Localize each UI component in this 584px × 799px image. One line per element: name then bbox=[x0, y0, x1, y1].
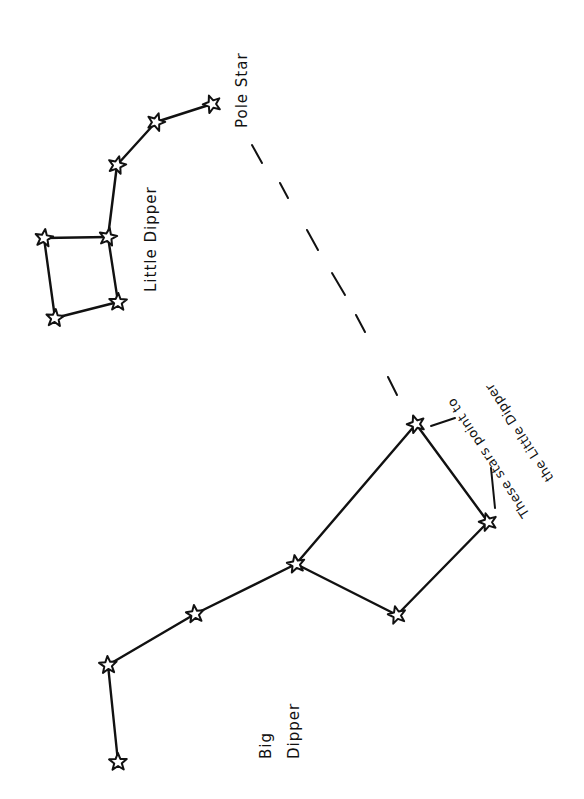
big-dipper-star-icon bbox=[185, 604, 204, 623]
little-dipper-line bbox=[156, 104, 212, 122]
big-dipper-line bbox=[108, 614, 195, 665]
big-dipper-star-icon bbox=[405, 413, 427, 434]
big-dipper-line bbox=[397, 522, 488, 615]
pointer-dash bbox=[388, 377, 397, 395]
pole-star-icon bbox=[201, 93, 223, 115]
little-dipper-line bbox=[44, 238, 55, 318]
pointer-dash bbox=[307, 230, 318, 250]
little-dipper-line bbox=[108, 237, 118, 302]
big-dipper-label-line1: Big bbox=[257, 732, 275, 759]
big-dipper-label-line2: Dipper bbox=[285, 703, 303, 759]
big-dipper-line bbox=[195, 564, 296, 614]
pointer-dash bbox=[332, 273, 345, 295]
pointer-dash bbox=[252, 145, 262, 163]
little-dipper-star-icon bbox=[109, 293, 127, 310]
stars bbox=[34, 93, 498, 770]
pointer-tick-upper bbox=[431, 418, 455, 426]
pole-star-label: Pole Star bbox=[233, 52, 251, 128]
little-dipper-line bbox=[117, 122, 156, 165]
big-dipper-line bbox=[296, 424, 416, 564]
big-dipper-star-icon bbox=[109, 753, 127, 770]
big-dipper-line bbox=[108, 665, 118, 762]
big-dipper-line bbox=[296, 564, 397, 615]
pointer-note-line1: These stars point to bbox=[444, 395, 533, 521]
constellation-diagram: Pole Star Little Dipper Big Dipper These… bbox=[0, 0, 584, 799]
pointer-dash bbox=[280, 183, 288, 198]
little-dipper-star-icon bbox=[46, 308, 65, 326]
little-dipper-line bbox=[108, 165, 117, 237]
little-dipper-label: Little Dipper bbox=[142, 186, 160, 292]
dashed-pointer-line bbox=[252, 145, 397, 395]
pointer-dash bbox=[356, 315, 365, 332]
